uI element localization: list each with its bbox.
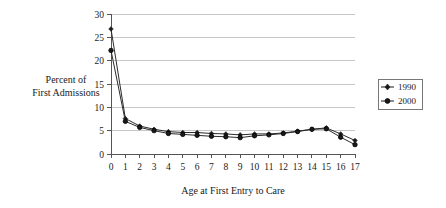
circle-marker-icon [123,119,127,123]
ytick-label-0: 0 [99,150,104,160]
ytick-label-25: 25 [95,33,105,43]
xtick-label-8: 8 [223,162,228,172]
xtick-label-15: 15 [322,162,332,172]
circle-marker-icon [338,135,342,139]
circle-marker-icon [295,129,299,133]
x-axis-tick-labels: 01234567891011121314151617 [109,162,360,172]
xtick-label-1: 1 [123,162,128,172]
circle-marker-icon [385,99,390,104]
x-axis-title: Age at First Entry to Care [181,185,285,196]
line-chart: 30 25 20 15 10 5 0 012345678910111213141… [0,0,446,208]
legend-label-1990: 1990 [398,82,417,92]
y-axis-title-line1: Percent of [46,74,87,85]
legend: 1990 2000 [378,79,422,109]
circle-marker-icon [238,135,242,139]
x-axis-ticks [111,154,355,158]
y-axis-tick-labels: 30 25 20 15 10 5 0 [95,10,105,160]
xtick-label-4: 4 [166,162,171,172]
xtick-label-7: 7 [209,162,214,172]
circle-marker-icon [152,128,156,132]
xtick-label-2: 2 [137,162,142,172]
circle-marker-icon [310,127,314,131]
xtick-label-9: 9 [238,162,243,172]
circle-marker-icon [209,134,213,138]
legend-label-2000: 2000 [398,96,417,106]
circle-marker-icon [353,142,357,146]
chart-svg: 30 25 20 15 10 5 0 012345678910111213141… [0,0,446,208]
xtick-label-3: 3 [152,162,157,172]
circle-marker-icon [166,131,170,135]
circle-marker-icon [324,127,328,131]
xtick-label-5: 5 [180,162,185,172]
y-axis-title: Percent of First Admissions [32,74,100,98]
xtick-label-0: 0 [109,162,114,172]
ytick-label-10: 10 [95,103,105,113]
xtick-label-12: 12 [278,162,288,172]
circle-marker-icon [181,132,185,136]
xtick-label-10: 10 [250,162,260,172]
xtick-label-17: 17 [350,162,360,172]
circle-marker-icon [252,134,256,138]
xtick-label-11: 11 [264,162,273,172]
xtick-label-13: 13 [293,162,303,172]
circle-marker-icon [138,125,142,129]
xtick-label-14: 14 [307,162,317,172]
ytick-label-20: 20 [95,56,105,66]
y-axis-ticks [107,14,111,154]
y-axis-title-line2: First Admissions [32,87,100,98]
circle-marker-icon [195,133,199,137]
circle-marker-icon [267,133,271,137]
circle-marker-icon [281,131,285,135]
circle-marker-icon [109,48,113,52]
ytick-label-5: 5 [99,126,104,136]
xtick-label-6: 6 [195,162,200,172]
ytick-label-30: 30 [95,10,105,20]
xtick-label-16: 16 [336,162,346,172]
circle-marker-icon [224,135,228,139]
